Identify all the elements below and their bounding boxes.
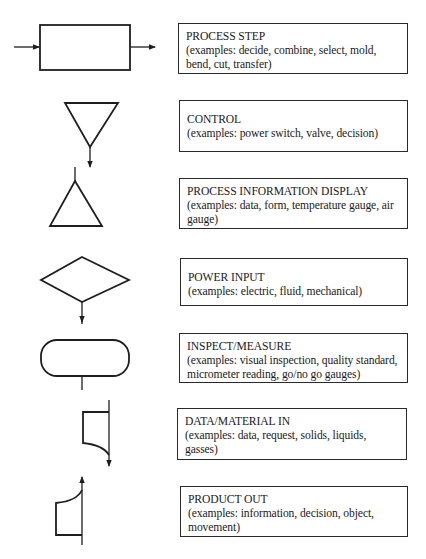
legend-title: CONTROL bbox=[187, 113, 401, 127]
legend-title: PROCESS INFORMATION DISPLAY bbox=[187, 185, 401, 199]
legend-description: (examples: data, form, temperature gauge… bbox=[187, 199, 401, 227]
legend-description: (examples: visual inspection, quality st… bbox=[187, 354, 401, 382]
legend-box-data-material-in: DATA/MATERIAL IN (examples: data, reques… bbox=[177, 408, 407, 460]
legend-description: (examples: electric, fluid, mechanical) bbox=[188, 285, 401, 299]
legend-box-inspect-measure: INSPECT/MEASURE (examples: visual inspec… bbox=[179, 333, 408, 383]
legend-description: (examples: power switch, valve, decision… bbox=[187, 127, 401, 141]
legend-title: POWER INPUT bbox=[188, 271, 401, 285]
process-step-symbol bbox=[14, 25, 155, 70]
product-out-symbol bbox=[56, 477, 82, 545]
legend-box-control: CONTROL (examples: power switch, valve, … bbox=[179, 100, 408, 152]
control-symbol bbox=[65, 103, 118, 167]
legend-box-process-step: PROCESS STEP (examples: decide, combine,… bbox=[178, 23, 408, 74]
power-input-symbol bbox=[41, 257, 129, 322]
legend-title: INSPECT/MEASURE bbox=[187, 340, 401, 354]
legend-description: (examples: data, request, solids, liquid… bbox=[185, 429, 400, 457]
legend-title: PROCESS STEP bbox=[186, 30, 401, 44]
legend-title: DATA/MATERIAL IN bbox=[185, 415, 400, 429]
legend-description: (examples: decide, combine, select, mold… bbox=[186, 44, 401, 72]
process-information-display-symbol bbox=[50, 167, 102, 226]
legend-box-process-information-display: PROCESS INFORMATION DISPLAY (examples: d… bbox=[179, 178, 408, 229]
legend-box-product-out: PRODUCT OUT (examples: information, deci… bbox=[180, 486, 408, 537]
legend-title: PRODUCT OUT bbox=[188, 493, 401, 507]
legend-description: (examples: information, decision, object… bbox=[188, 507, 401, 535]
data-material-in-symbol bbox=[83, 400, 109, 466]
inspect-measure-symbol bbox=[41, 318, 129, 390]
legend-box-power-input: POWER INPUT (examples: electric, fluid, … bbox=[180, 258, 408, 306]
